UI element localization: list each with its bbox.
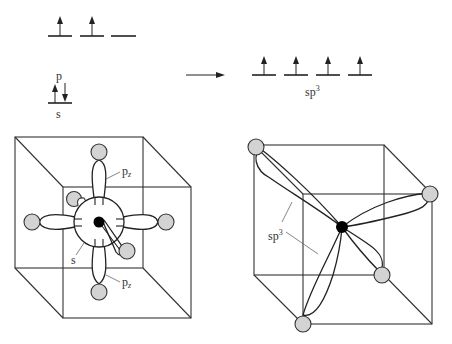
- hydrogen-sphere-bottom-right: [374, 267, 390, 283]
- hydrogen-sphere-bottom: [91, 284, 107, 300]
- sp3-leader-lines: [282, 202, 318, 254]
- ground-state-p-orbitals: [48, 16, 136, 36]
- p-label: p: [56, 69, 62, 83]
- hydrogen-sphere-bottom-left: [295, 316, 311, 332]
- sp3-orbital-label: sp3: [268, 228, 283, 243]
- pz-top-label: pz: [122, 164, 132, 179]
- hydrogen-sphere-top: [91, 144, 107, 160]
- s-orbital-label: s: [71, 253, 76, 267]
- pz-bottom-label: pz: [122, 275, 132, 290]
- nucleus: [336, 221, 348, 233]
- right-arrow-icon: [186, 72, 225, 78]
- ground-state-s-orbital: [48, 83, 72, 103]
- hydrogen-sphere-right: [158, 214, 174, 230]
- nucleus: [94, 217, 105, 228]
- sp3-orbitals: [252, 56, 372, 75]
- hydrogen-sphere-front: [119, 243, 135, 259]
- hydrogen-sphere-left: [24, 214, 40, 230]
- sp3-level-label: sp3: [305, 84, 320, 99]
- hydrogen-sphere-right: [422, 186, 438, 202]
- hydrogen-sphere-top-left: [248, 139, 264, 155]
- hybridization-diagram: p s sp3: [0, 0, 452, 344]
- s-label: s: [56, 107, 61, 121]
